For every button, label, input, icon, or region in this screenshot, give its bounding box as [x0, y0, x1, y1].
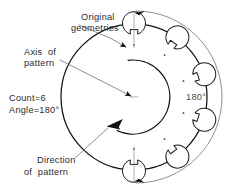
feature-center-dot: [164, 138, 166, 140]
cad-drawing-canvas: 180° Original geometries Axis of pattern…: [0, 0, 226, 193]
inner-c-cutout: [117, 60, 170, 134]
pattern-feature-4: [162, 138, 194, 173]
leader-axis-of-pattern: [60, 60, 131, 96]
feature-keyed-hole: [190, 60, 218, 89]
text-annotations: Original geometries Axis of pattern Coun…: [9, 12, 119, 177]
pattern-feature-1: [162, 21, 194, 56]
feature-keyed-hole: [190, 105, 218, 134]
technical-drawing: 180° Original geometries Axis of pattern…: [0, 0, 226, 193]
direction-arrowhead: [107, 119, 123, 130]
feature-center-dot: [164, 54, 166, 56]
label-original-geometries-line2: geometries: [71, 23, 119, 33]
label-original-geometries-line1: Original: [81, 12, 115, 22]
label-axis-of-pattern-line2: pattern: [24, 58, 54, 68]
label-pattern-angle: Angle=180°: [9, 105, 59, 115]
leader-lines: [60, 25, 131, 158]
pattern-feature-3: [183, 105, 219, 134]
label-axis-of-pattern-line1: Axis of: [24, 47, 56, 57]
leader-direction-of-pattern: [75, 128, 108, 158]
pattern-feature-2: [183, 60, 219, 89]
label-pattern-count: Count=6: [9, 93, 46, 103]
label-direction-of-pattern-line2: of pattern: [24, 167, 68, 177]
feature-center-dot: [183, 112, 185, 114]
feature-center-dot: [183, 80, 185, 82]
direction-of-pattern-arrow: [107, 119, 123, 130]
label-direction-of-pattern-line1: Direction: [37, 155, 76, 165]
angle-dimension-label: 180°: [186, 92, 206, 102]
